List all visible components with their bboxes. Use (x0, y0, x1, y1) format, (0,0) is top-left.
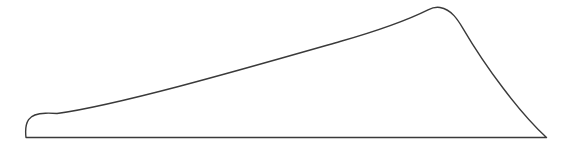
figure-background (0, 0, 570, 150)
wing-planform-diagram (0, 0, 570, 150)
figure-canvas (0, 0, 570, 150)
